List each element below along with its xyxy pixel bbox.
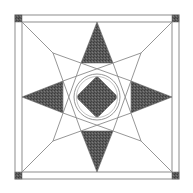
corner-square-top-right <box>172 15 179 22</box>
diagonal-top-left <box>22 22 53 53</box>
star-point-west <box>22 81 63 113</box>
corner-square-bottom-left <box>15 172 22 179</box>
star-point-north <box>81 22 113 63</box>
diagram-svg <box>0 0 193 193</box>
diagonal-bottom-right <box>141 141 172 172</box>
corner-square-bottom-right <box>172 172 179 179</box>
star-point-south <box>81 131 113 172</box>
diagonal-bottom-left <box>22 141 53 172</box>
star-point-east <box>131 81 172 113</box>
quilt-star-diagram <box>0 0 193 193</box>
diagonal-top-right <box>141 22 172 53</box>
corner-square-top-left <box>15 15 22 22</box>
